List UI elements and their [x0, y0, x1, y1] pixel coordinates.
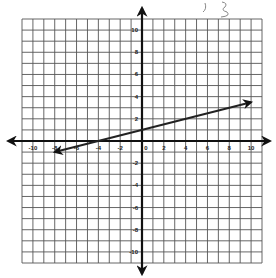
y-tick-label: -10 [129, 249, 138, 255]
coordinate-plane: -10-8-6-4-20246810-10-8-6-4-2246810 [0, 0, 276, 278]
y-tick-label: -4 [133, 182, 139, 188]
x-tick-label: -10 [29, 145, 38, 151]
x-tick-label: 8 [228, 145, 232, 151]
x-tick-label: 10 [248, 145, 255, 151]
x-tick-label: -8 [52, 145, 58, 151]
x-tick-label: 4 [184, 145, 188, 151]
y-tick-label: -8 [133, 227, 139, 233]
handwritten-annotation [203, 2, 228, 17]
y-tick-label: -6 [133, 205, 139, 211]
y-tick-label: -2 [133, 160, 139, 166]
x-tick-label: -4 [96, 145, 102, 151]
y-tick-label: 10 [131, 27, 138, 33]
x-tick-label: 6 [206, 145, 210, 151]
x-tick-label: 0 [144, 145, 148, 151]
x-tick-label: 2 [162, 145, 166, 151]
x-tick-label: -2 [118, 145, 124, 151]
